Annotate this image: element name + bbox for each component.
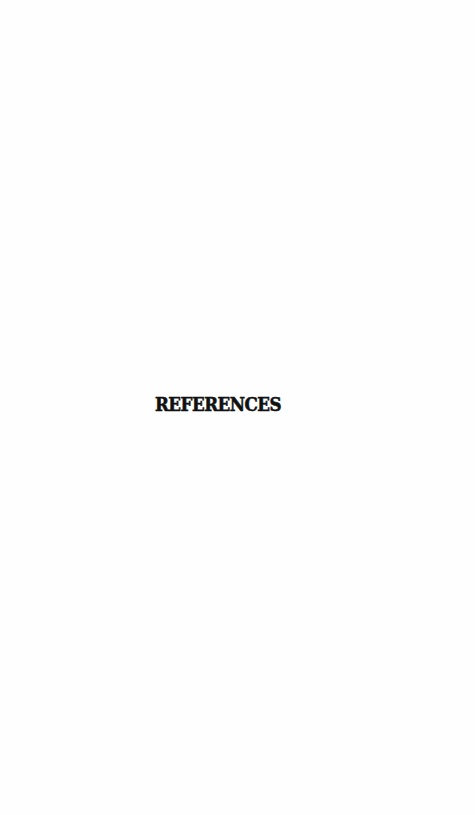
document-page: REFERENCES <box>0 0 475 815</box>
section-heading: REFERENCES <box>155 392 283 416</box>
